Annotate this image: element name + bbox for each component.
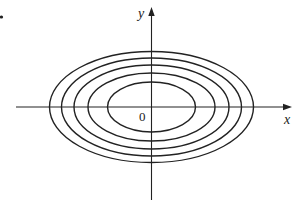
x-axis-arrow-icon: [283, 104, 292, 110]
y-axis-arrow-icon: [148, 7, 154, 16]
bullet-dot: [0, 15, 3, 18]
origin-label: 0: [139, 109, 146, 124]
contour-ellipses-diagram: x y 0: [0, 0, 296, 203]
x-axis-label: x: [283, 112, 291, 127]
y-axis-label: y: [136, 6, 145, 21]
